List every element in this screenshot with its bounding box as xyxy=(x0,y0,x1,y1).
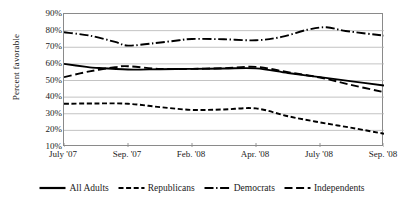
legend-item-democrats[interactable]: Democrats xyxy=(204,183,275,193)
x-tick-label: Sep. '07 xyxy=(113,149,142,160)
y-tick-label: 30% xyxy=(46,108,63,117)
chart-legend: All AdultsRepublicansDemocratsIndependen… xyxy=(0,183,404,193)
y-tick-label: 20% xyxy=(46,125,63,134)
y-tick-label: 80% xyxy=(46,25,63,34)
legend-label: All Adults xyxy=(69,183,108,193)
legend-key-longdash xyxy=(284,183,311,193)
legend-key-dashed xyxy=(118,183,145,193)
y-tick-label: 70% xyxy=(46,42,63,51)
x-axis-tick-labels: July '07Sep. '07Feb. '08Apr. '08July '08… xyxy=(0,149,404,165)
x-tick-label: Feb. '08 xyxy=(177,149,206,160)
chart-figure: Percent favorable 90%80%70%60%50%40%30%2… xyxy=(0,0,404,208)
series-line-democrats xyxy=(64,27,384,45)
series-line-republicans xyxy=(64,103,384,133)
legend-label: Independents xyxy=(314,183,365,193)
y-tick-label: 50% xyxy=(46,75,63,84)
y-tick-label: 60% xyxy=(46,58,63,67)
legend-label: Republicans xyxy=(148,183,195,193)
x-tick-label: Sep. '08 xyxy=(369,149,398,160)
legend-key-dashdot xyxy=(204,183,231,193)
legend-item-republicans[interactable]: Republicans xyxy=(118,183,195,193)
legend-item-independents[interactable]: Independents xyxy=(284,183,365,193)
y-tick-label: 90% xyxy=(46,9,63,18)
y-axis-tick-labels: 90%80%70%60%50%40%30%20%10% xyxy=(26,0,62,160)
chart-canvas xyxy=(64,14,384,147)
legend-item-all-adults[interactable]: All Adults xyxy=(39,183,108,193)
legend-key-solid xyxy=(39,183,66,193)
legend-label: Democrats xyxy=(234,183,275,193)
y-axis-title: Percent favorable xyxy=(11,7,21,127)
y-tick-label: 40% xyxy=(46,92,63,101)
x-tick-label: July '07 xyxy=(49,149,77,160)
x-tick-label: July '08 xyxy=(305,149,333,160)
x-tick-label: Apr. '08 xyxy=(241,149,270,160)
plot-area xyxy=(63,13,383,146)
